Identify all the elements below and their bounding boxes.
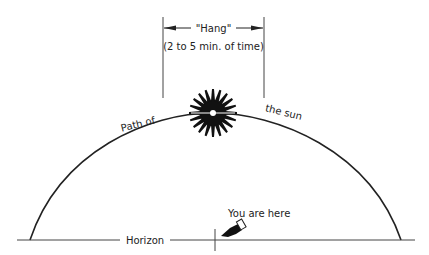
pointing-hand-icon (221, 219, 246, 237)
you-are-here-label: You are here (227, 208, 290, 219)
sun-icon (189, 89, 237, 137)
sun-path-arc (30, 113, 401, 240)
hang-duration-label: (2 to 5 min. of time) (163, 41, 264, 52)
hang-label: "Hang" (196, 23, 232, 34)
the-sun-label: the sun (264, 102, 303, 122)
sun-hang-diagram: "Hang" (2 to 5 min. of time) Path of the… (0, 0, 429, 255)
horizon-label: Horizon (126, 235, 164, 246)
path-of-label: Path of (120, 114, 157, 133)
